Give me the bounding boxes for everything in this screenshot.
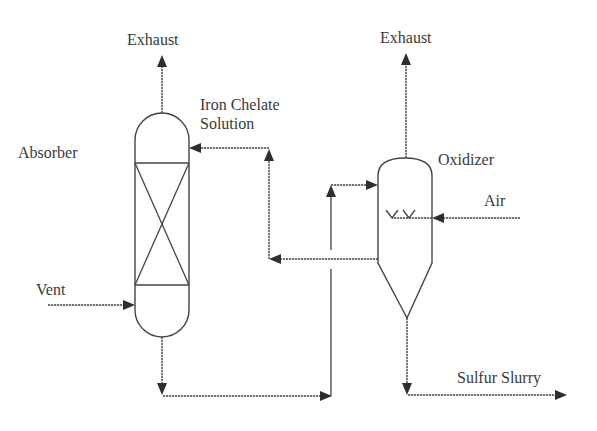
oxidizer-exhaust-stream xyxy=(401,53,411,158)
iron-chelate-solution-stream xyxy=(189,143,378,264)
sulfur-slurry-label: Sulfur Slurry xyxy=(457,369,541,387)
absorber-label: Absorber xyxy=(18,144,78,161)
vent-stream xyxy=(48,300,135,310)
absorber-exhaust-stream xyxy=(157,55,167,113)
arrow-up-icon xyxy=(326,185,336,197)
arrow-left-icon xyxy=(189,143,201,153)
arrow-right-icon xyxy=(320,391,332,401)
iron-chelate-label-line2: Solution xyxy=(200,115,254,132)
sulfur-slurry-stream xyxy=(402,318,567,400)
process-flow-diagram: Absorber Exhaust Vent Iron Chelate Solut… xyxy=(0,0,597,431)
oxidizer-label: Oxidizer xyxy=(438,151,495,168)
arrow-up-icon xyxy=(264,149,274,161)
arrow-up-icon xyxy=(157,55,167,67)
iron-chelate-label-line1: Iron Chelate xyxy=(200,96,280,113)
oxidizer-vessel xyxy=(378,158,432,318)
air-label: Air xyxy=(484,192,506,209)
oxidizer-exhaust-label: Exhaust xyxy=(380,29,432,46)
arrow-down-icon xyxy=(402,383,412,395)
arrow-right-icon xyxy=(555,390,567,400)
arrow-right-icon xyxy=(366,180,378,190)
arrow-up-icon xyxy=(401,53,411,65)
absorber-exhaust-label: Exhaust xyxy=(127,31,179,48)
absorber-vessel xyxy=(135,113,189,337)
arrow-left-icon xyxy=(269,254,281,264)
arrow-left-icon xyxy=(432,213,444,223)
arrow-down-icon xyxy=(157,383,167,395)
rich-solution-stream xyxy=(157,180,378,401)
arrow-right-icon xyxy=(123,300,135,310)
vent-label: Vent xyxy=(36,281,66,298)
air-sparger-icon xyxy=(386,210,415,218)
